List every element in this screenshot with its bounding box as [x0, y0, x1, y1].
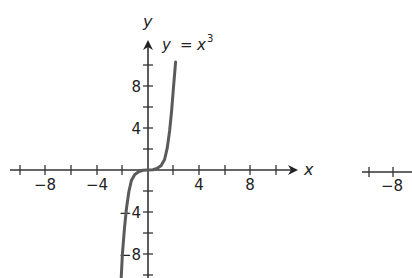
equation-label: y = x 3: [161, 33, 213, 54]
x-tick-label-4: 4: [194, 176, 204, 194]
equation-equals: =: [180, 36, 193, 54]
y-tick-label-neg4: −4: [119, 204, 141, 222]
x-axis-label: x: [303, 160, 314, 179]
x-tick-label-8: 8: [245, 176, 255, 194]
equation-exponent: 3: [207, 33, 213, 44]
y-tick-label-8: 8: [131, 78, 141, 96]
second-graph-x-tick-label-neg8: −8: [381, 177, 403, 195]
x-tick-label-neg4: −4: [86, 176, 108, 194]
x-tick-label-neg8: −8: [34, 176, 56, 194]
cubic-function-graph: −8 −4 4 8 x 8 4 −4 −8 y y = x 3: [0, 0, 412, 278]
equation-y: y: [161, 36, 172, 54]
y-axis-label: y: [142, 12, 153, 31]
second-graph-x-axis: −8: [362, 167, 412, 195]
y-tick-label-4: 4: [131, 120, 141, 138]
equation-x: x: [196, 36, 206, 54]
